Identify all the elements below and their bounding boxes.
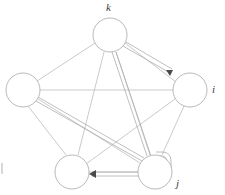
- graph-svg: [0, 0, 225, 195]
- node-i[interactable]: [173, 73, 207, 107]
- node-label-i: i: [212, 84, 215, 95]
- node-label-k: k: [106, 2, 111, 13]
- path-k-to-j-stroke-a: [112, 52, 147, 156]
- path-k-to-i-stroke-b: [126, 42, 172, 69]
- edge-i-j: [162, 106, 184, 155]
- left-edge-mark: [1, 163, 3, 174]
- node-k[interactable]: [93, 18, 127, 52]
- diagram-canvas: k i j: [0, 0, 225, 195]
- path-k-to-j-stroke-b: [116, 52, 151, 156]
- arrowhead-j-to-l: [89, 170, 96, 178]
- node-bottom-left[interactable]: [55, 155, 89, 189]
- node-j[interactable]: [138, 155, 172, 189]
- nodes: [6, 18, 207, 189]
- path-k-to-i-stroke-a: [123, 46, 170, 73]
- node-left[interactable]: [6, 73, 40, 107]
- path-m-to-j-stroke-b: [38, 97, 144, 158]
- edge-k-l: [78, 52, 104, 155]
- node-label-j: j: [176, 178, 179, 189]
- edge-k-m: [37, 43, 95, 81]
- edge-k-i: [125, 43, 176, 82]
